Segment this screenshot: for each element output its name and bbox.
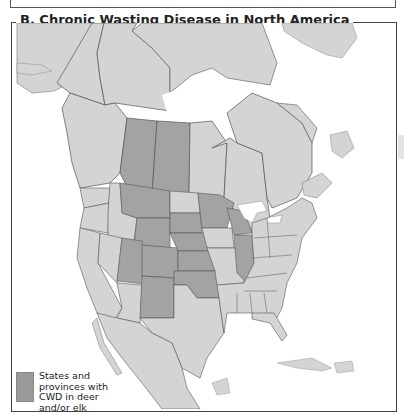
region-iowa [202,228,234,248]
region-hispaniola [334,361,354,373]
legend-label-cwd: States and provinces with CWD in deer an… [39,371,119,413]
region-arizona [117,283,142,323]
region-new-mexico [140,276,174,318]
legend-swatch-cwd [16,372,34,402]
north-america-map [12,23,394,409]
map-legend: States and provinces with CWD in deer an… [16,371,119,413]
region-south-dakota [170,213,202,233]
side-tab [398,135,404,159]
previous-panel-frame [10,0,396,8]
region-alberta [120,118,157,195]
region-north-dakota [170,191,200,213]
region-saskatchewan [152,121,190,195]
region-colorado [142,245,178,278]
